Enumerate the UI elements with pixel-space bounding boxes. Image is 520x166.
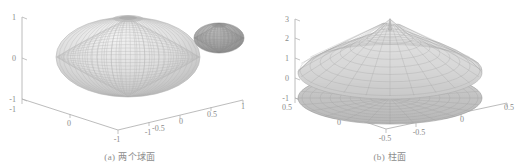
- z-ticklabel-b-4: -1: [282, 94, 289, 103]
- z-tick-1: [295, 58, 300, 60]
- y-ticklabel-b-0: 0.5: [282, 103, 292, 112]
- x-ticklabel-a-2: 0: [179, 117, 183, 126]
- surface-small-sphere: [194, 23, 244, 53]
- z-tick-1: [22, 17, 27, 19]
- x-ticklabel-a-4: 1: [241, 102, 245, 111]
- z-ticklabel-a-2: -1: [9, 95, 16, 104]
- z-tick-2: [295, 38, 300, 40]
- z-ticklabel-b-3: 0: [285, 74, 289, 83]
- x-ticklabel-b-2: 0.5: [504, 103, 514, 112]
- x-ticklabel-b-0: -0.5: [413, 128, 426, 137]
- surface-large-sphere: [56, 15, 200, 97]
- plot-two-spheres: 1 0 -1 -1 0 -1 -1 -0.5 0 0.5 1: [0, 0, 260, 150]
- y-ticklabel-b-2: -0.5: [379, 134, 392, 143]
- y-ticklabel-a-1: 0: [67, 119, 71, 128]
- figure-panel-a: 1 0 -1 -1 0 -1 -1 -0.5 0 0.5 1: [0, 0, 260, 166]
- z-ticklabel-a-0: 1: [12, 13, 16, 22]
- z-tick-0: [295, 78, 300, 80]
- z-ticklabel-b-0: 3: [285, 15, 289, 24]
- caption-panel-a: (a) 两个球面: [0, 150, 260, 163]
- x-ticklabel-a-1: -0.5: [152, 124, 165, 133]
- x-ticklabel-b-1: 0: [460, 115, 464, 124]
- caption-panel-b: (b) 柱面: [260, 150, 520, 163]
- y-ticklabel-a-0: -1: [9, 105, 16, 114]
- z-ticklabel-b-2: 1: [285, 54, 289, 63]
- z-tick-0: [22, 58, 27, 60]
- figure-panel-b: 3 2 1 0 -1 0.5 0 -0.5 -0.5 0 0.5: [260, 0, 520, 166]
- figure-root: 1 0 -1 -1 0 -1 -1 -0.5 0 0.5 1: [0, 0, 520, 166]
- plot-cylinder: 3 2 1 0 -1 0.5 0 -0.5 -0.5 0 0.5: [260, 0, 520, 150]
- z-ticklabel-b-1: 2: [285, 34, 289, 43]
- x-ticklabel-a-3: 0.5: [207, 110, 217, 119]
- x-ticklabel-a-0: -1: [145, 128, 152, 137]
- z-ticklabel-a-1: 0: [12, 54, 16, 63]
- z-tick-3: [295, 19, 300, 21]
- y-ticklabel-a-2: -1: [114, 135, 121, 144]
- surface-upper-cone: [298, 19, 482, 100]
